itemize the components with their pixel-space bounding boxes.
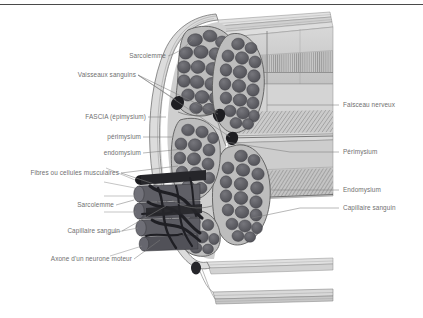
leader-sarcolemme-bottom: [116, 200, 134, 205]
fascicle-lower-right: [212, 145, 270, 245]
label-faisceau-nerveux: Faisceau nerveux: [343, 101, 396, 108]
label-capillaire-sanguin-left: Capillaire sanguin: [67, 227, 120, 235]
label-fibres-cellules-musculaires: Fibres ou cellules musculaires: [30, 169, 119, 176]
figure-page: Sarcolemme Vaisseaux sanguins FASCIA (ép…: [0, 0, 423, 318]
label-perimysium-right: Périmysium: [343, 148, 377, 156]
muscle-cross-section-figure: Sarcolemme Vaisseaux sanguins FASCIA (ép…: [0, 0, 423, 318]
label-perimysium-left: périmysium: [107, 133, 141, 141]
label-axone-neurone-moteur: Axone d'un neurone moteur: [51, 255, 133, 262]
label-sarcolemme-bottom: Sarcolemme: [77, 201, 114, 208]
label-endomysium-right: Endomysium: [343, 186, 381, 194]
label-capillaire-sanguin-right: Capillaire sanguin: [343, 204, 396, 212]
fascia-bottom-sheet: [196, 258, 333, 304]
label-endomysium-left: endomysium: [104, 149, 141, 157]
label-vaisseaux-sanguins: Vaisseaux sanguins: [78, 71, 136, 79]
label-fascia-epimysium: FASCIA (épimysium): [85, 113, 146, 121]
blood-vessel-bottom: [191, 262, 201, 275]
label-sarcolemme-top: Sarcolemme: [129, 52, 166, 59]
leader-fibres-1: [121, 166, 178, 173]
